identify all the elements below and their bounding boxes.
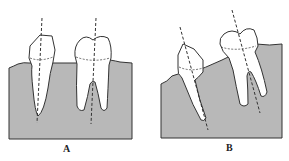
panel-a-label: A: [63, 143, 70, 154]
panel-a: [9, 18, 132, 139]
panel-b-label: B: [226, 142, 233, 153]
panel-b: [161, 10, 282, 138]
tooth-axis-diagram: [0, 0, 289, 161]
bone-a: [9, 60, 132, 139]
